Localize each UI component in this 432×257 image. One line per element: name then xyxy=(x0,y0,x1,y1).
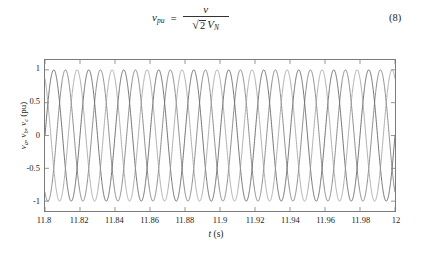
figure-three-phase-voltages: 10.50-0.5-1 11.811.8211.8411.8611.8811.9… xyxy=(0,42,432,257)
x-tick-label: 11.8 xyxy=(24,216,64,225)
square-root-group: √2 xyxy=(192,19,206,32)
x-axis-title: t (s) xyxy=(0,229,432,239)
x-tick-label: 11.82 xyxy=(59,216,99,225)
waveform-v_a xyxy=(45,70,395,201)
radicand: 2 xyxy=(199,20,206,32)
equation-lhs-subscript: pu xyxy=(157,16,165,25)
equation-number: (8) xyxy=(389,12,401,23)
x-tick-label: 12 xyxy=(376,216,416,225)
fraction-denominator: √2 VN xyxy=(188,17,223,32)
radical-sign-icon: √ xyxy=(192,19,199,31)
plot-frame xyxy=(44,59,396,212)
equation-band: vpu = v √2 VN (8) xyxy=(0,0,432,42)
x-axis-title-unit: (s) xyxy=(213,229,223,239)
denominator-variable-subscript: N xyxy=(214,23,219,32)
equation-expression: vpu = v √2 VN xyxy=(152,4,229,32)
x-tick-label: 11.9 xyxy=(200,216,240,225)
x-tick-label: 11.88 xyxy=(165,216,205,225)
waveform-traces xyxy=(45,70,395,201)
equation-lhs: vpu xyxy=(152,11,164,25)
fraction-numerator: v xyxy=(197,4,214,16)
x-tick-label: 11.86 xyxy=(130,216,170,225)
y-axis-title: va, vb, vc (pu) xyxy=(18,51,29,201)
denominator-variable-symbol: V xyxy=(207,18,214,30)
x-tick-label: 11.94 xyxy=(270,216,310,225)
equation-fraction: v √2 VN xyxy=(183,4,229,32)
x-tick-label: 11.92 xyxy=(235,216,275,225)
x-tick-label: 11.98 xyxy=(341,216,381,225)
denominator-variable: VN xyxy=(207,19,219,32)
waveform-plot xyxy=(45,60,395,211)
x-tick-label: 11.96 xyxy=(306,216,346,225)
equals-sign: = xyxy=(168,12,178,24)
x-tick-label: 11.84 xyxy=(94,216,134,225)
x-axis-title-symbol: t xyxy=(208,229,211,239)
